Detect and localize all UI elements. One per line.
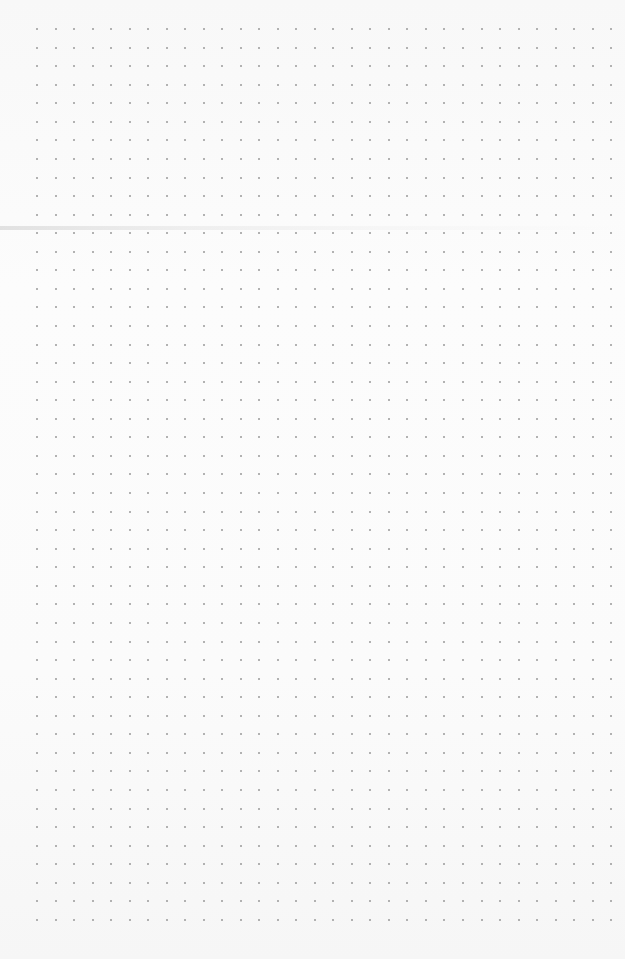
grid-dot (573, 845, 575, 847)
grid-dot (73, 177, 75, 179)
grid-dot (592, 84, 594, 86)
grid-dot (203, 121, 205, 123)
grid-dot (277, 269, 279, 271)
grid-dot (36, 344, 38, 346)
grid-dot (351, 863, 353, 865)
grid-dot (92, 121, 94, 123)
grid-dot (295, 195, 297, 197)
grid-dot (443, 603, 445, 605)
grid-dot (73, 641, 75, 643)
grid-dot (36, 195, 38, 197)
grid-dot (147, 214, 149, 216)
grid-dot (73, 511, 75, 513)
grid-dot (610, 566, 612, 568)
grid-dot (536, 845, 538, 847)
grid-dot (481, 585, 483, 587)
grid-dot (240, 566, 242, 568)
grid-dot (406, 511, 408, 513)
grid-dot (443, 288, 445, 290)
grid-dot (314, 121, 316, 123)
grid-dot (388, 603, 390, 605)
grid-dot (555, 381, 557, 383)
grid-dot (351, 177, 353, 179)
grid-dot (129, 845, 131, 847)
grid-dot (499, 28, 501, 30)
grid-dot (443, 139, 445, 141)
grid-dot (518, 659, 520, 661)
grid-dot (184, 455, 186, 457)
grid-dot (110, 455, 112, 457)
grid-dot (592, 492, 594, 494)
grid-dot (221, 399, 223, 401)
grid-dot (351, 121, 353, 123)
grid-dot (129, 492, 131, 494)
grid-dot (573, 919, 575, 921)
grid-dot (295, 65, 297, 67)
grid-dot (610, 214, 612, 216)
grid-dot (610, 900, 612, 902)
grid-dot (388, 808, 390, 810)
grid-dot (499, 882, 501, 884)
grid-dot (55, 214, 57, 216)
grid-dot (443, 121, 445, 123)
grid-dot (240, 418, 242, 420)
grid-dot (221, 511, 223, 513)
grid-dot (573, 381, 575, 383)
grid-dot (573, 362, 575, 364)
grid-dot (277, 473, 279, 475)
grid-dot (221, 232, 223, 234)
grid-dot (332, 696, 334, 698)
grid-dot (258, 288, 260, 290)
grid-dot (314, 789, 316, 791)
grid-dot (55, 492, 57, 494)
grid-dot (518, 641, 520, 643)
grid-dot (36, 436, 38, 438)
grid-dot (555, 826, 557, 828)
grid-dot (443, 863, 445, 865)
grid-dot (332, 845, 334, 847)
grid-dot (555, 808, 557, 810)
grid-dot (592, 306, 594, 308)
grid-dot (73, 195, 75, 197)
grid-dot (518, 733, 520, 735)
grid-dot (73, 288, 75, 290)
grid-dot (332, 232, 334, 234)
grid-dot (573, 65, 575, 67)
grid-dot (573, 566, 575, 568)
grid-dot (314, 863, 316, 865)
grid-dot (332, 900, 334, 902)
grid-dot (610, 399, 612, 401)
grid-dot (481, 121, 483, 123)
grid-dot (258, 715, 260, 717)
grid-dot (166, 900, 168, 902)
grid-dot (481, 306, 483, 308)
grid-dot (55, 826, 57, 828)
grid-dot (258, 808, 260, 810)
grid-dot (295, 752, 297, 754)
grid-dot (73, 752, 75, 754)
grid-dot (481, 214, 483, 216)
grid-dot (536, 900, 538, 902)
grid-dot (332, 641, 334, 643)
grid-dot (240, 65, 242, 67)
grid-dot (369, 473, 371, 475)
grid-dot (555, 455, 557, 457)
grid-dot (499, 232, 501, 234)
grid-dot (258, 214, 260, 216)
grid-dot (536, 455, 538, 457)
grid-dot (36, 566, 38, 568)
grid-dot (369, 158, 371, 160)
grid-dot (277, 585, 279, 587)
grid-dot (166, 232, 168, 234)
grid-dot (295, 882, 297, 884)
grid-dot (92, 436, 94, 438)
grid-dot (499, 102, 501, 104)
grid-dot (55, 529, 57, 531)
grid-dot (55, 102, 57, 104)
grid-dot (110, 362, 112, 364)
grid-dot (184, 473, 186, 475)
grid-dot (351, 399, 353, 401)
grid-dot (92, 344, 94, 346)
grid-dot (481, 882, 483, 884)
grid-dot (573, 232, 575, 234)
